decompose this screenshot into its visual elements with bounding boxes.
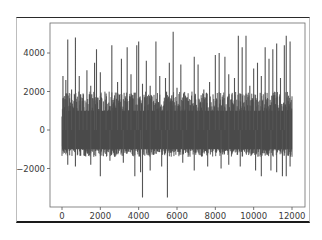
line-chart: 020004000600080001000012000 −20000200040… bbox=[0, 0, 322, 240]
x-axis: 020004000600080001000012000 bbox=[59, 207, 305, 221]
y-tick-label: 4000 bbox=[23, 48, 45, 58]
y-tick-label: 0 bbox=[40, 125, 45, 135]
y-tick-label: 2000 bbox=[23, 87, 45, 97]
x-tick-label: 12000 bbox=[278, 211, 305, 221]
y-axis: −2000020004000 bbox=[16, 48, 50, 174]
x-tick-label: 6000 bbox=[166, 211, 188, 221]
x-tick-label: 8000 bbox=[205, 211, 227, 221]
y-tick-label: −2000 bbox=[16, 164, 45, 174]
x-tick-label: 0 bbox=[59, 211, 64, 221]
x-tick-label: 10000 bbox=[240, 211, 267, 221]
x-tick-label: 4000 bbox=[128, 211, 150, 221]
x-tick-label: 2000 bbox=[90, 211, 112, 221]
